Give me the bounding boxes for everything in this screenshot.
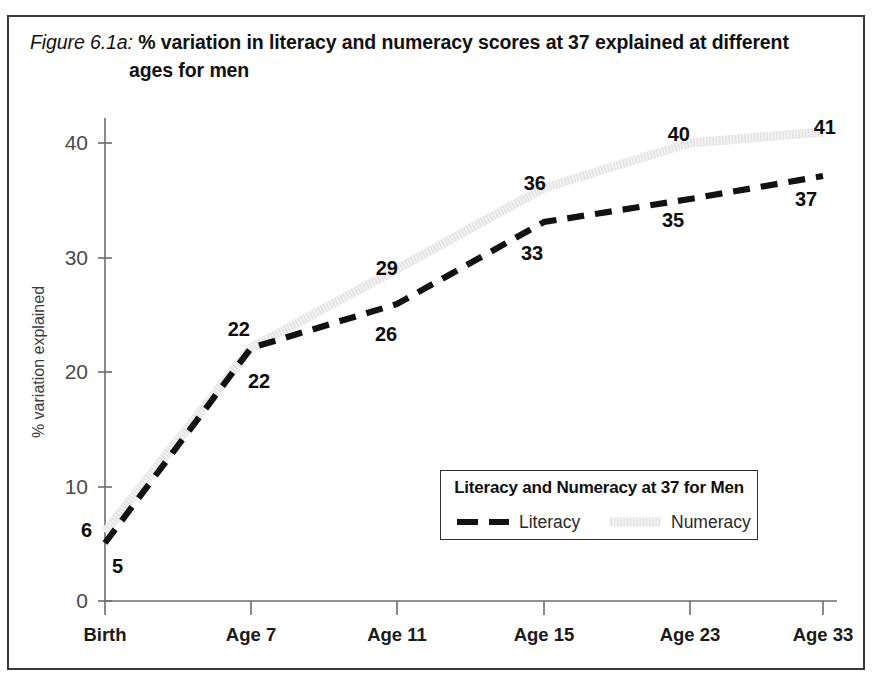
y-tick-label-0: 0 [76,589,88,612]
x-axis-tick-labels: Birth Age 7 Age 11 Age 15 Age 23 Age 33 [83,624,853,645]
data-label-numeracy-age11: 29 [376,257,398,279]
y-tick-label-20: 20 [65,360,88,383]
data-label-numeracy-birth: 6 [81,519,92,541]
data-label-numeracy-age15: 36 [524,172,546,194]
data-label-literacy-birth: 5 [112,555,123,577]
x-tick-label-age33: Age 33 [793,624,854,645]
y-tick-label-10: 10 [65,475,88,498]
x-tick-label-age11: Age 11 [367,624,427,645]
chart-legend: Literacy and Numeracy at 37 for Men Lite… [440,470,758,540]
x-axis-ticks [105,601,823,615]
x-tick-label-age7: Age 7 [226,624,276,645]
x-tick-label-age23: Age 23 [660,624,721,645]
data-label-literacy-age23: 35 [662,209,684,231]
y-axis-title: % variation explained [30,286,47,438]
data-label-numeracy-age33: 41 [814,116,836,138]
legend-entry-literacy[interactable]: Literacy [455,508,580,536]
legend-swatch-numeracy-icon [607,508,663,536]
y-tick-label-40: 40 [65,131,88,154]
data-label-literacy-age33: 37 [795,188,817,210]
x-tick-label-birth: Birth [83,624,126,645]
x-tick-label-age15: Age 15 [514,624,575,645]
legend-label-literacy: Literacy [519,512,580,533]
data-label-literacy-age15: 33 [521,242,543,264]
data-label-numeracy-age7: 22 [228,318,250,340]
legend-swatch-literacy-icon [455,508,511,536]
legend-entry-numeracy[interactable]: Numeracy [607,508,751,536]
legend-title: Literacy and Numeracy at 37 for Men [441,478,757,498]
y-tick-label-30: 30 [65,246,88,269]
legend-label-numeracy: Numeracy [671,512,751,533]
figure-container: Figure 6.1a: % variation in literacy and… [0,0,872,684]
data-label-literacy-age7: 22 [248,370,270,392]
data-label-literacy-age11: 26 [375,323,397,345]
data-label-numeracy-age23: 40 [668,123,690,145]
line-chart: 40 30 20 10 0 % variation explained Birt… [0,0,872,684]
